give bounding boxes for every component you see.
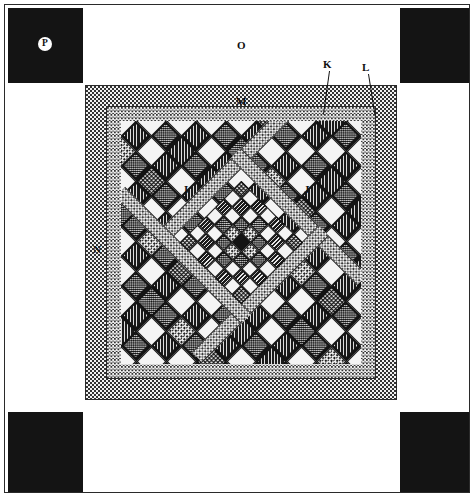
label-N: N: [93, 244, 101, 255]
label-O-text: O: [237, 39, 246, 51]
label-I-text: I: [184, 183, 188, 195]
quilt-diagram-page: P O K L M N I J: [0, 0, 476, 499]
label-K-text: K: [323, 58, 332, 70]
corner-square-bottom-left: [8, 412, 83, 492]
label-J-text: J: [304, 183, 310, 195]
label-M-text: M: [236, 95, 246, 107]
outer-frame: P O K L M N I J: [4, 4, 470, 493]
corner-square-top-right: [400, 8, 469, 83]
quilt-interior: [121, 121, 361, 364]
label-P-text: P: [38, 37, 52, 51]
label-N-text: N: [93, 243, 101, 255]
label-J: J: [304, 184, 310, 195]
label-O: O: [237, 40, 246, 51]
label-L-text: L: [362, 61, 369, 73]
label-P: P: [38, 37, 52, 51]
label-I: I: [184, 184, 188, 195]
label-K: K: [323, 59, 332, 70]
label-M: M: [236, 96, 246, 107]
corner-square-bottom-right: [400, 412, 469, 492]
label-L: L: [362, 62, 369, 73]
